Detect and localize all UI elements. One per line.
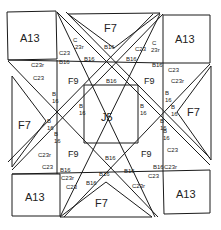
outer-frame bbox=[8, 60, 163, 174]
label-c23: C23 bbox=[135, 46, 147, 52]
label-c23r: C23r bbox=[61, 175, 74, 181]
label-b16-stacked: 16 bbox=[171, 111, 178, 117]
center-square: J5 bbox=[84, 85, 138, 143]
quilt-block-diagram: A13 A13 A13 A13 F7 F7 F7 F7 bbox=[0, 0, 221, 230]
label-b16: B16 bbox=[84, 56, 95, 62]
label-b16-stacked: B bbox=[52, 91, 56, 97]
label-b16-stacked: B bbox=[79, 103, 83, 109]
label-c23: C23 bbox=[33, 75, 45, 81]
label-c23: C23 bbox=[167, 147, 179, 153]
label-b16: B16 bbox=[86, 180, 97, 186]
label-f9-bottom-left: F9 bbox=[68, 149, 79, 159]
label-c23r: C23r bbox=[31, 62, 44, 68]
label-f7-top: F7 bbox=[104, 22, 117, 34]
label-b16-stacked: 16 bbox=[52, 98, 59, 104]
corner-square-bottom-left: A13 bbox=[12, 174, 60, 216]
label-b16-stacked: B bbox=[140, 103, 144, 109]
label-b16-stacked: 16 bbox=[54, 138, 61, 144]
label-c23r-stacked: C bbox=[152, 40, 157, 46]
label-b16-stacked: B bbox=[47, 118, 51, 124]
label-b16: B16 bbox=[59, 59, 70, 65]
label-b16-stacked: B bbox=[160, 118, 164, 124]
label-c23r-stacked: 23r bbox=[151, 47, 160, 53]
label-b16: B16 bbox=[153, 164, 164, 170]
label-a13-bottom-right: A13 bbox=[176, 188, 196, 200]
label-b16: B16 bbox=[60, 167, 71, 173]
label-b16-stacked: 16 bbox=[163, 135, 170, 141]
label-b16: B16 bbox=[104, 44, 115, 50]
label-c23r: C23r bbox=[164, 164, 177, 170]
label-c23r-stacked: C bbox=[73, 37, 78, 43]
label-b16: B16 bbox=[152, 62, 163, 68]
label-c23: C23 bbox=[168, 67, 180, 73]
label-c23: C23 bbox=[148, 173, 160, 179]
label-f9-top-left: F9 bbox=[68, 76, 79, 86]
corner-square-top-right: A13 bbox=[163, 15, 210, 63]
label-b16: B16 bbox=[105, 155, 116, 161]
label-b16-stacked: 16 bbox=[140, 110, 147, 116]
label-j5: J5 bbox=[101, 111, 113, 123]
label-c23: C23 bbox=[42, 164, 54, 170]
diagram-canvas: A13 A13 A13 A13 F7 F7 F7 F7 bbox=[0, 0, 221, 230]
label-c23r: C23r bbox=[38, 152, 51, 158]
label-c23: C23 bbox=[59, 50, 71, 56]
label-b16-stacked: B bbox=[165, 90, 169, 96]
label-b16: B16 bbox=[126, 56, 137, 62]
label-c23r: C23r bbox=[171, 78, 184, 84]
label-b16-stacked: B bbox=[54, 131, 58, 137]
label-f7-right: F7 bbox=[187, 106, 200, 118]
label-f7-left: F7 bbox=[18, 119, 31, 131]
label-b16: B16 bbox=[106, 78, 117, 84]
label-c23: C23 bbox=[66, 184, 78, 190]
label-b16: B16 bbox=[99, 171, 110, 177]
label-b16-stacked: 16 bbox=[160, 125, 167, 131]
label-a13-bottom-left: A13 bbox=[25, 191, 45, 203]
label-c23r-stacked: 23r bbox=[75, 44, 84, 50]
label-c23r: C23r bbox=[132, 183, 145, 189]
label-f9-bottom-right: F9 bbox=[141, 149, 152, 159]
label-a13-top-right: A13 bbox=[175, 33, 195, 45]
label-b16-stacked: 16 bbox=[79, 110, 86, 116]
label-f9-top-right: F9 bbox=[144, 76, 155, 86]
corner-square-bottom-right: A13 bbox=[163, 170, 210, 214]
label-f7-bottom: F7 bbox=[95, 197, 108, 209]
label-b16-stacked: B bbox=[171, 104, 175, 110]
label-a13-top-left: A13 bbox=[20, 32, 40, 44]
label-b16: B16 bbox=[124, 168, 135, 174]
corner-square-top-left: A13 bbox=[7, 11, 57, 60]
label-b16-stacked: 16 bbox=[165, 97, 172, 103]
